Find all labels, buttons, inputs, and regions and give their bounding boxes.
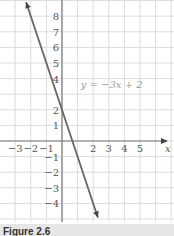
grid-lines <box>0 0 174 222</box>
x-tick-label: 4 <box>121 143 127 154</box>
line-arrow-end-icon <box>93 211 98 218</box>
y-tick-label: 8 <box>53 11 59 22</box>
figure-caption: Figure 2.6 <box>3 227 50 236</box>
y-tick-label: 1 <box>53 120 59 131</box>
y-tick-label: 7 <box>53 27 59 38</box>
axes <box>0 0 168 222</box>
y-tick-label: 5 <box>53 58 59 69</box>
y-tick-label: −1 <box>44 152 59 163</box>
chart-plot: x−3−2−123458765421−1−2−3−4 y = −3x + 2 <box>0 0 174 222</box>
x-tick-label: 5 <box>137 143 143 154</box>
equation-label: y = −3x + 2 <box>80 79 143 90</box>
y-tick-label: −3 <box>44 183 59 194</box>
x-tick-label: −2 <box>23 143 38 154</box>
annotations: y = −3x + 2 <box>80 79 143 90</box>
line-arrow-start-icon <box>25 2 30 9</box>
y-tick-label: −2 <box>44 167 59 178</box>
y-tick-label: 2 <box>53 105 59 116</box>
x-axis-label: x <box>165 143 171 154</box>
y-tick-label: 6 <box>53 42 59 53</box>
x-tick-label: 2 <box>90 143 96 154</box>
x-tick-label: 3 <box>106 143 112 154</box>
y-tick-label: −4 <box>44 198 59 209</box>
x-tick-label: −3 <box>8 143 23 154</box>
